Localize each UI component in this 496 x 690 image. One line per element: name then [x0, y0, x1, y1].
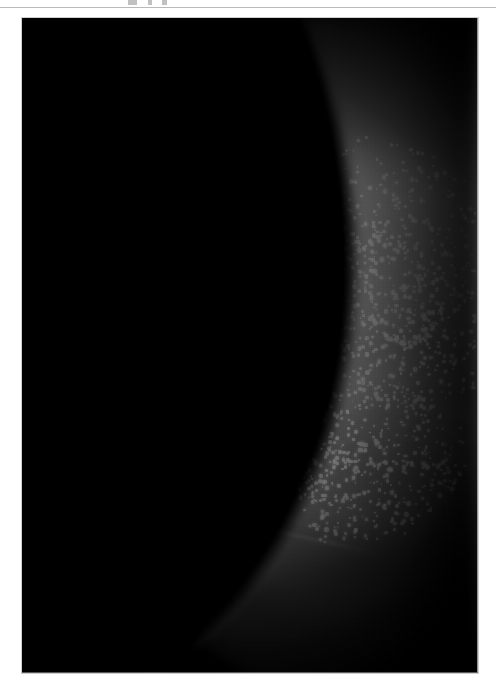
radiograph-image	[22, 18, 478, 673]
cut-off-text-fragment	[128, 0, 137, 5]
cut-off-text-fragment	[148, 0, 152, 5]
mammogram-figure	[22, 18, 478, 673]
page-rule	[0, 7, 496, 8]
page-top-artifacts	[0, 0, 496, 9]
cut-off-text-fragment	[162, 0, 167, 5]
bottom-density-falloff	[22, 403, 478, 673]
